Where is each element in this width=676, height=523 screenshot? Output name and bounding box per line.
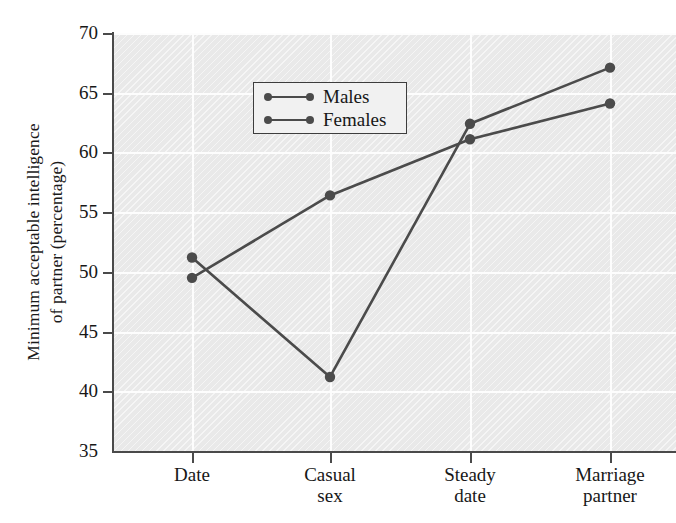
x-axis-tick-label-line: sex — [260, 485, 400, 506]
y-axis-tick-mark — [103, 212, 114, 214]
data-point — [605, 62, 615, 72]
y-axis-tick-mark — [103, 93, 114, 95]
legend-line-marker-icon — [263, 113, 315, 127]
x-axis-tick-mark — [470, 452, 472, 463]
y-axis-tick-label: 60 — [56, 142, 98, 161]
x-axis-tick-label: Marriagepartner — [540, 464, 676, 507]
x-axis-tick-mark — [330, 452, 332, 463]
chart-legend: Males Females — [253, 82, 407, 134]
data-point — [605, 98, 615, 108]
chart-figure: Minimum acceptable intelligence of partn… — [0, 0, 676, 523]
x-axis-tick-label: Casualsex — [260, 464, 400, 507]
data-point — [465, 134, 475, 144]
x-axis-tick-label-line: Steady — [400, 464, 540, 485]
x-axis-spine — [112, 451, 676, 453]
y-axis-tick-label: 50 — [56, 262, 98, 281]
y-axis-tick-mark — [103, 391, 114, 393]
legend-line-marker-icon — [263, 90, 315, 104]
y-axis-tick-mark — [103, 152, 114, 154]
y-axis-tick-label: 35 — [56, 441, 98, 460]
y-axis-tick-label: 45 — [56, 322, 98, 341]
y-axis-tick-mark — [103, 33, 114, 35]
x-axis-tick-mark — [610, 452, 612, 463]
data-point — [187, 252, 197, 262]
x-axis-tick-label-line: partner — [540, 485, 676, 506]
data-point — [187, 273, 197, 283]
x-axis-tick-label-line: Casual — [260, 464, 400, 485]
legend-item-females: Females — [254, 108, 406, 131]
y-axis-title-line1: Minimum acceptable intelligence — [22, 123, 45, 360]
x-axis-tick-label-line: Marriage — [540, 464, 676, 485]
y-axis-tick-label: 40 — [56, 381, 98, 400]
y-axis-tick-label: 70 — [56, 23, 98, 42]
data-point — [325, 372, 335, 382]
x-axis-tick-label-line: Date — [122, 464, 262, 485]
x-axis-tick-mark — [192, 452, 194, 463]
legend-label-females: Females — [323, 110, 386, 129]
legend-label-males: Males — [323, 87, 369, 106]
x-axis-tick-label: Date — [122, 464, 262, 485]
x-axis-tick-label-line: date — [400, 485, 540, 506]
y-axis-tick-label: 55 — [56, 202, 98, 221]
x-axis-tick-label: Steadydate — [400, 464, 540, 507]
y-axis-tick-mark — [103, 332, 114, 334]
y-axis-tick-label: 65 — [56, 83, 98, 102]
legend-item-males: Males — [254, 85, 406, 108]
plot-area: Males Females — [114, 33, 676, 451]
data-point — [325, 190, 335, 200]
y-axis-tick-mark — [103, 272, 114, 274]
data-point — [465, 119, 475, 129]
